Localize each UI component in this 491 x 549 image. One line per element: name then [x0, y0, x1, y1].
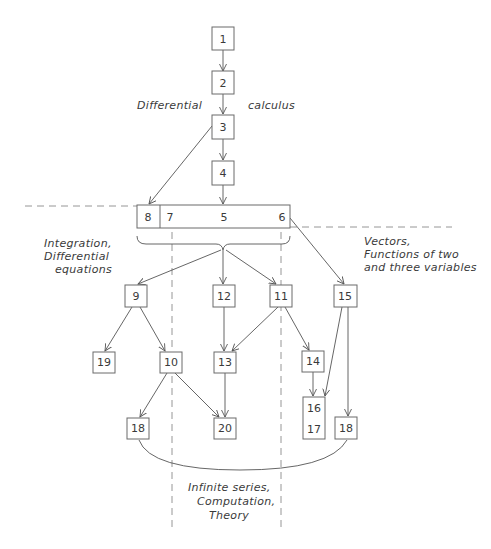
- node-10-label: 10: [164, 356, 178, 369]
- edge-11-13: [232, 307, 278, 351]
- label-infinite-line1: Infinite series,: [188, 481, 271, 494]
- node-4: 4: [212, 161, 234, 185]
- node-14: 14: [302, 351, 324, 372]
- label-calculus: calculus: [248, 99, 295, 112]
- label-infinite-line3: Theory: [209, 509, 249, 522]
- node-3-label: 3: [220, 121, 227, 134]
- edge-group-9: [138, 250, 221, 284]
- node-18-left: 18: [127, 418, 149, 439]
- node-2: 2: [212, 71, 234, 94]
- node-18-left-label: 18: [131, 422, 145, 435]
- node-13-label: 13: [218, 356, 232, 369]
- region-labels: Differential calculus Integration, Diffe…: [44, 99, 477, 522]
- node-9-label: 9: [133, 290, 140, 303]
- node-16-17: 16 17: [303, 397, 325, 439]
- node-11-label: 11: [274, 290, 288, 303]
- node-group-8-7-5-6: 8 7 5 6: [137, 205, 290, 228]
- edge-10-20: [175, 373, 219, 417]
- node-5-label: 5: [221, 211, 228, 224]
- arc-18-18: [139, 440, 347, 470]
- node-18-right: 18: [335, 417, 357, 439]
- node-6-label: 6: [279, 211, 286, 224]
- label-integration-line2: Differential: [44, 250, 109, 263]
- node-16-label: 16: [307, 402, 321, 415]
- node-12: 12: [213, 285, 235, 307]
- node-15: 15: [334, 285, 357, 307]
- edge-11-14: [285, 307, 309, 350]
- node-18-right-label: 18: [339, 422, 353, 435]
- edge-3-8: [149, 126, 212, 204]
- node-4-label: 4: [220, 167, 227, 180]
- label-vectors-line2: Functions of two: [364, 248, 459, 261]
- node-11: 11: [270, 285, 292, 307]
- edge-6-15: [290, 218, 344, 284]
- node-14-label: 14: [306, 355, 320, 368]
- edge-9-10: [140, 307, 165, 351]
- label-integration-line3: equations: [55, 263, 112, 276]
- node-1: 1: [212, 27, 234, 50]
- node-8-label: 8: [145, 211, 152, 224]
- node-2-label: 2: [220, 77, 227, 90]
- node-7-label: 7: [167, 211, 174, 224]
- label-vectors-line1: Vectors,: [364, 235, 411, 248]
- node-10: 10: [160, 352, 182, 373]
- node-13: 13: [214, 352, 236, 373]
- edge-10-18: [140, 373, 167, 417]
- label-vectors-line3: and three variables: [364, 261, 477, 274]
- edge-15-16: [325, 307, 342, 396]
- node-12-label: 12: [217, 290, 231, 303]
- node-9: 9: [125, 285, 147, 307]
- edge-9-19: [105, 307, 132, 351]
- node-17-label: 17: [307, 423, 321, 436]
- node-19-label: 19: [97, 356, 111, 369]
- group-brace: [137, 236, 290, 250]
- node-1-label: 1: [220, 33, 227, 46]
- label-integration-line1: Integration,: [44, 237, 112, 250]
- node-19: 19: [93, 352, 115, 373]
- node-20: 20: [214, 418, 236, 439]
- label-infinite-line2: Computation,: [197, 495, 275, 508]
- node-3: 3: [212, 115, 234, 139]
- dependency-diagram: 1 2 3 4 8 7 5 6 9 12: [0, 0, 491, 549]
- label-differential: Differential: [137, 99, 202, 112]
- node-20-label: 20: [218, 422, 232, 435]
- node-15-label: 15: [338, 290, 352, 303]
- edge-group-11: [226, 250, 276, 284]
